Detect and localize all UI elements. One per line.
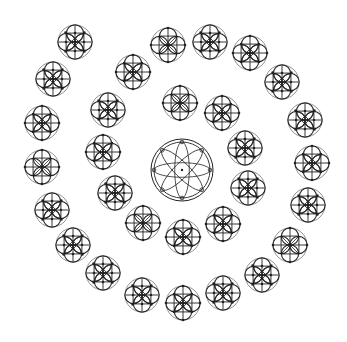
inner-ring-motif bbox=[162, 85, 199, 122]
inner-ring-motif bbox=[98, 176, 132, 210]
outer-ring-motif bbox=[272, 227, 309, 264]
outer-ring-motif bbox=[232, 35, 269, 72]
outer-ring-motif bbox=[86, 256, 120, 290]
outer-ring-motif bbox=[294, 145, 331, 182]
outer-ring-motif bbox=[35, 193, 69, 227]
inner-ring-motif bbox=[204, 95, 241, 132]
inner-ring-motif bbox=[165, 219, 202, 256]
outer-ring-motif bbox=[58, 25, 92, 59]
inner-ring-motif bbox=[91, 93, 125, 127]
inner-ring-motif bbox=[115, 54, 152, 91]
inner-ring-motif bbox=[231, 171, 265, 205]
outer-ring-motif bbox=[165, 285, 202, 322]
center-rosette bbox=[151, 139, 213, 201]
inner-ring-motif bbox=[85, 134, 122, 171]
outer-ring-motif bbox=[36, 62, 70, 96]
outer-ring-motif bbox=[56, 228, 90, 262]
diagram-canvas bbox=[0, 0, 347, 342]
outer-ring-motif bbox=[288, 103, 322, 137]
outer-ring-motif bbox=[206, 276, 240, 310]
outer-ring-motif bbox=[24, 105, 61, 142]
outer-ring-motif bbox=[245, 258, 279, 292]
outer-ring-motif bbox=[193, 25, 227, 59]
outer-ring-motif bbox=[291, 188, 325, 222]
outer-ring-motif bbox=[125, 278, 159, 312]
outer-ring-motifs bbox=[24, 25, 331, 321]
inner-ring-motif bbox=[205, 206, 242, 243]
inner-ring-motif bbox=[228, 131, 262, 165]
inner-ring-motif bbox=[125, 205, 162, 242]
outer-ring-motif bbox=[150, 27, 187, 64]
geometric-rosette-diagram bbox=[0, 0, 347, 342]
outer-ring-motif bbox=[24, 149, 61, 186]
outer-ring-motif bbox=[265, 65, 299, 99]
